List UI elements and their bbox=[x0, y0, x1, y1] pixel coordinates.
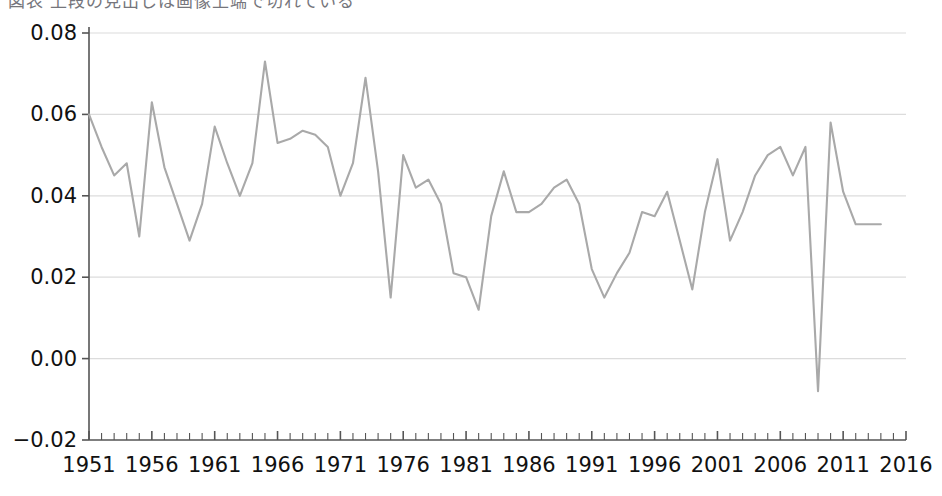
x-tick-label: 1991 bbox=[565, 453, 618, 477]
y-tick-label: −0.02 bbox=[0, 428, 77, 452]
x-tick-label: 1981 bbox=[439, 453, 492, 477]
y-tick-label: 0.00 bbox=[0, 347, 77, 371]
x-tick-label: 2006 bbox=[754, 453, 807, 477]
axes-group bbox=[89, 27, 906, 440]
x-tick-label: 1976 bbox=[376, 453, 429, 477]
y-tick-label: 0.02 bbox=[0, 265, 77, 289]
y-tick-label: 0.04 bbox=[0, 184, 77, 208]
x-tick-label: 2011 bbox=[816, 453, 869, 477]
y-tick-label: 0.08 bbox=[0, 21, 77, 45]
x-tick-label: 1986 bbox=[502, 453, 555, 477]
y-tick-marks-group bbox=[82, 33, 89, 440]
chart-figure: 図表 上段の見出しは画像上端で切れている −0.020.000.020.040.… bbox=[0, 0, 942, 496]
x-tick-label: 1961 bbox=[188, 453, 241, 477]
data-series-group bbox=[89, 61, 881, 391]
line-chart-plot bbox=[0, 0, 942, 496]
x-tick-label: 1971 bbox=[314, 453, 367, 477]
x-tick-label: 2016 bbox=[879, 453, 932, 477]
x-tick-label: 1966 bbox=[251, 453, 304, 477]
x-tick-label: 1951 bbox=[62, 453, 115, 477]
x-tick-label: 1956 bbox=[125, 453, 178, 477]
x-tick-label: 2001 bbox=[691, 453, 744, 477]
x-tick-marks-group bbox=[89, 431, 906, 440]
x-tick-label: 1996 bbox=[628, 453, 681, 477]
y-tick-label: 0.06 bbox=[0, 102, 77, 126]
series-line-0 bbox=[89, 61, 881, 391]
